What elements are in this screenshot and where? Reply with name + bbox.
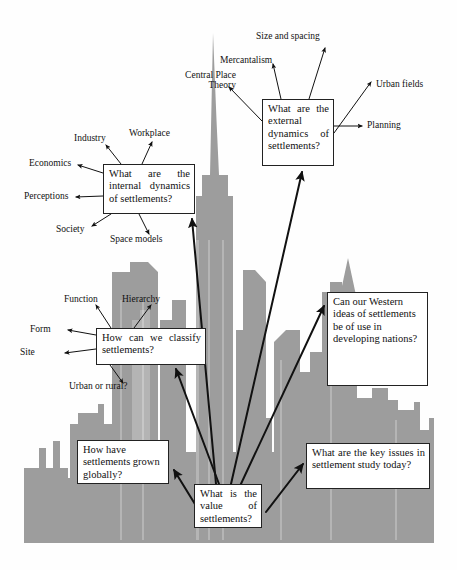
arrow-internal-to-perceptions bbox=[76, 196, 103, 197]
label-society: Society bbox=[56, 224, 85, 234]
label-workplace: Workplace bbox=[129, 128, 170, 138]
box-central-value-of-settlements[interactable]: What is the value of settlements? bbox=[194, 484, 262, 528]
label-perceptions: Perceptions bbox=[24, 191, 68, 201]
label-form: Form bbox=[30, 324, 51, 334]
arrow-classify-to-form bbox=[68, 330, 96, 335]
label-urban-or-rural: Urban or rural? bbox=[69, 381, 128, 391]
label-size-and-spacing: Size and spacing bbox=[256, 31, 320, 41]
label-function: Function bbox=[64, 294, 98, 304]
box-western-ideas[interactable]: Can our Western ideas of settlements be … bbox=[327, 292, 428, 386]
arrow-external-to-central-place-theory bbox=[229, 87, 262, 121]
label-economics: Economics bbox=[29, 158, 71, 168]
label-site: Site bbox=[20, 347, 35, 357]
label-space-models: Space models bbox=[110, 234, 163, 244]
label-urban-fields: Urban fields bbox=[376, 79, 423, 89]
label-central-place-theory: Central Place Theory bbox=[174, 70, 236, 91]
label-hierarchy: Hierarchy bbox=[122, 294, 160, 304]
label-industry: Industry bbox=[74, 133, 106, 143]
box-key-issues[interactable]: What are the key issues in settlement st… bbox=[306, 443, 430, 489]
arrow-internal-to-space-models bbox=[139, 214, 149, 234]
label-planning: Planning bbox=[367, 120, 401, 130]
diagram-canvas: What are the internal dynamics of settle… bbox=[0, 0, 457, 570]
arrow-external-to-urban-fields bbox=[334, 82, 371, 133]
arrow-internal-to-economics bbox=[78, 165, 103, 173]
arrow-external-to-mercantalism bbox=[273, 64, 281, 99]
box-grown-globally[interactable]: How have settlements grown globally? bbox=[77, 440, 169, 484]
box-classify-settlements[interactable]: How can we classify settlements? bbox=[96, 328, 206, 365]
arrow-classify-to-function bbox=[96, 305, 111, 328]
arrow-external-to-size-and-spacing bbox=[309, 48, 325, 99]
arrow-internal-to-workplace bbox=[142, 142, 152, 164]
box-internal-dynamics[interactable]: What are the internal dynamics of settle… bbox=[103, 164, 195, 214]
arrow-classify-to-site bbox=[65, 349, 96, 353]
box-external-dynamics[interactable]: What are the external dynamics of settle… bbox=[262, 99, 334, 166]
arrow-internal-to-society bbox=[92, 214, 111, 226]
label-mercantalism: Mercantalism bbox=[220, 55, 272, 65]
arrow-internal-to-industry bbox=[106, 145, 121, 164]
